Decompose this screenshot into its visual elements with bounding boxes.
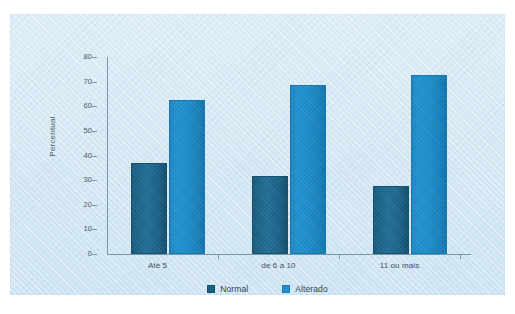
- bar-alterado: [169, 100, 205, 254]
- x-tick-mark: [339, 254, 340, 259]
- y-tick-mark: [92, 254, 97, 255]
- chart-panel: Percentual 01020304050607080 Até 5de 6 a…: [10, 14, 505, 295]
- bar-normal: [131, 163, 167, 254]
- y-tick-label: 70: [62, 77, 92, 86]
- y-tick-label: 40: [62, 151, 92, 160]
- y-tick-label: 20: [62, 200, 92, 209]
- legend-swatch-icon: [207, 285, 215, 293]
- chart-legend: NormalAlterado: [10, 284, 515, 294]
- x-axis-line: [107, 254, 471, 255]
- y-tick-mark: [92, 229, 97, 230]
- bar-alterado: [290, 85, 326, 254]
- y-tick-mark: [92, 82, 97, 83]
- y-tick-label: 10: [62, 224, 92, 233]
- y-tick-mark: [92, 106, 97, 107]
- plot-area: [107, 57, 470, 254]
- bar-normal: [252, 176, 288, 254]
- legend-label: Normal: [220, 284, 248, 294]
- legend-entry: Alterado: [282, 284, 327, 294]
- legend-swatch-icon: [282, 285, 290, 293]
- y-tick-mark: [92, 131, 97, 132]
- y-tick-mark: [92, 180, 97, 181]
- x-tick-mark: [460, 254, 461, 259]
- bar-alterado: [411, 75, 447, 254]
- y-tick-mark: [92, 205, 97, 206]
- scan-artifact: [0, 0, 515, 12]
- x-tick-mark: [218, 254, 219, 259]
- bar-normal: [373, 186, 409, 254]
- y-tick-label: 0: [62, 249, 92, 258]
- y-tick-label: 80: [62, 52, 92, 61]
- y-tick-mark: [92, 57, 97, 58]
- y-tick-label: 50: [62, 126, 92, 135]
- y-tick-label: 30: [62, 175, 92, 184]
- category-label: 11 ou mais: [350, 261, 450, 270]
- y-tick-label: 60: [62, 101, 92, 110]
- y-tick-mark: [92, 156, 97, 157]
- category-label: de 6 a 10: [229, 261, 329, 270]
- chart-figure: Percentual 01020304050607080 Até 5de 6 a…: [0, 0, 515, 314]
- legend-entry: Normal: [207, 284, 248, 294]
- legend-label: Alterado: [295, 284, 327, 294]
- category-label: Até 5: [108, 261, 208, 270]
